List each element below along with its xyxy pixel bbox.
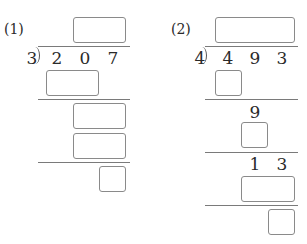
dividend-digit: 7 [105, 50, 121, 67]
product-answer-box[interactable] [46, 70, 99, 96]
intermediate-digit: 9 [247, 104, 263, 121]
dividend-digit: 3 [274, 50, 290, 67]
product-answer-box[interactable] [215, 70, 242, 96]
subtraction-line [38, 99, 130, 100]
problem-2-label: (2) [171, 22, 191, 36]
product-answer-box[interactable] [241, 176, 295, 202]
dividend-digit: 9 [247, 50, 263, 67]
division-bar [205, 46, 298, 47]
problem-1-label: (1) [4, 22, 24, 36]
final-remainder-box[interactable] [268, 209, 295, 235]
division-bar [38, 46, 130, 47]
remainder-answer-box[interactable] [73, 103, 126, 129]
product-answer-box[interactable] [73, 133, 126, 159]
subtraction-line [205, 99, 298, 100]
dividend-digit: 2 [49, 50, 65, 67]
subtraction-line [205, 205, 298, 206]
dividend-digit: 4 [220, 50, 236, 67]
dividend-digit: 0 [77, 50, 93, 67]
intermediate-digit: 1 [247, 156, 263, 173]
subtraction-line [205, 152, 298, 153]
final-remainder-box[interactable] [99, 166, 126, 192]
intermediate-digit: 3 [274, 156, 290, 173]
product-answer-box[interactable] [241, 122, 268, 148]
quotient-answer-box[interactable] [215, 17, 295, 43]
subtraction-line [38, 162, 130, 163]
quotient-answer-box[interactable] [73, 17, 126, 43]
